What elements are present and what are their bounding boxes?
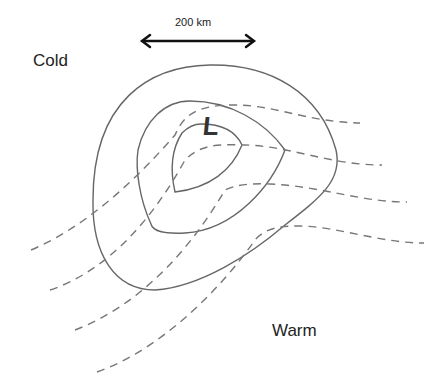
scale-bar-label: 200 km	[175, 16, 211, 28]
isotherms	[31, 105, 424, 372]
isobars	[93, 65, 337, 290]
isotherm-2	[50, 145, 382, 290]
cold-air-label: Cold	[33, 51, 68, 71]
isotherm-4	[97, 226, 424, 372]
scale-bar-arrow	[142, 35, 254, 47]
isotherm-1	[31, 105, 360, 250]
low-pressure-center-label: L	[201, 111, 220, 142]
warm-air-label: Warm	[272, 321, 317, 341]
